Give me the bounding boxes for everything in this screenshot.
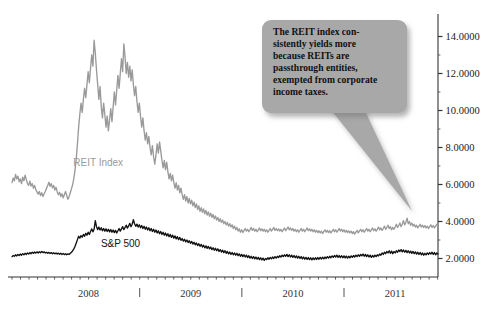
callout-tail-layer [0, 0, 491, 312]
callout-text: The REIT index con- sistently yields mor… [273, 26, 403, 99]
chart-container: 2.00004.00006.00008.000010.000012.000014… [0, 0, 491, 312]
callout-tail [320, 96, 412, 211]
